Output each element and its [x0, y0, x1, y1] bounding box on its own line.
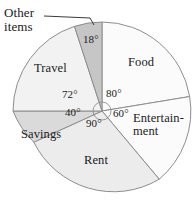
angle-label-rent: 90°	[86, 118, 102, 129]
pie-chart-figure: Other items Travel Food Entertain- ment …	[0, 0, 196, 213]
angle-label-travel: 72°	[62, 89, 78, 100]
pie-label-rent: Rent	[84, 154, 108, 167]
callout-label-other-items: Other items	[4, 6, 34, 34]
pie-label-savings: Savings	[21, 128, 61, 141]
pie-label-entertainment: Entertain- ment	[133, 112, 184, 138]
angle-label-entertainment: 60°	[113, 108, 129, 119]
pie-label-food: Food	[128, 56, 154, 69]
pie-label-travel: Travel	[34, 62, 67, 75]
angle-label-other-items: 18°	[83, 34, 99, 45]
angle-label-savings: 40°	[65, 107, 81, 118]
angle-label-food: 80°	[106, 88, 122, 99]
